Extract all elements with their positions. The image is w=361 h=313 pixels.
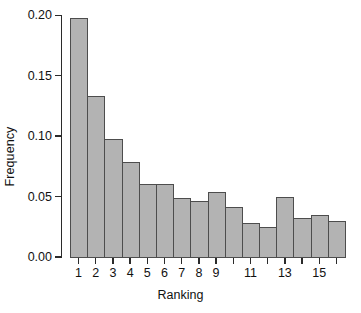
bar: [190, 201, 208, 258]
bar: [70, 18, 88, 258]
bar: [225, 207, 243, 258]
bar: [242, 223, 260, 258]
bar: [87, 96, 105, 258]
histogram-figure: Frequency 0.000.050.100.150.20 123456789…: [0, 0, 361, 313]
bar: [328, 221, 346, 258]
bar: [156, 184, 174, 258]
bar: [122, 162, 140, 258]
bar: [311, 215, 329, 258]
x-axis-label: Ranking: [0, 288, 361, 302]
bar: [208, 192, 226, 258]
bar: [276, 197, 294, 258]
bar: [139, 184, 157, 258]
bar: [293, 218, 311, 258]
bar: [173, 198, 191, 258]
bar: [259, 227, 277, 258]
bar-series: [0, 0, 361, 313]
bar: [104, 139, 122, 258]
